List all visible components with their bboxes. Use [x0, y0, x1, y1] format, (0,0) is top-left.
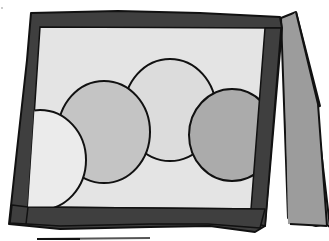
tent-card-frame-illustration: [0, 0, 329, 241]
picture-panel: [0, 27, 281, 210]
illustration-canvas: tent-card picture frame with overlapping…: [0, 0, 329, 241]
